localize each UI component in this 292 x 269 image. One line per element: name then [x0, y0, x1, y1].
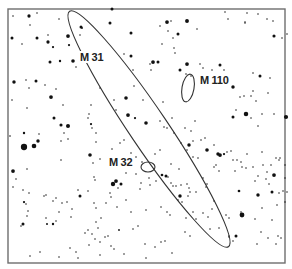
star: [246, 153, 248, 155]
star: [55, 220, 57, 222]
star: [36, 139, 39, 142]
star: [185, 19, 189, 23]
chart-frame: [8, 9, 285, 263]
star: [62, 104, 64, 106]
star: [173, 47, 175, 49]
star: [117, 187, 119, 189]
star: [53, 117, 56, 120]
star: [196, 28, 198, 30]
star: [79, 34, 81, 36]
star: [159, 149, 161, 151]
star: [126, 113, 130, 117]
star: [286, 191, 288, 193]
star: [49, 95, 53, 99]
star: [99, 254, 101, 256]
star: [29, 255, 31, 257]
star: [272, 173, 276, 177]
star: [88, 113, 90, 115]
star: [70, 216, 72, 218]
star: [211, 69, 213, 71]
star: [52, 223, 54, 225]
star: [252, 166, 254, 168]
star: [58, 18, 60, 20]
star: [284, 164, 286, 166]
star: [260, 231, 262, 233]
star: [159, 25, 161, 27]
star: [170, 182, 172, 184]
star: [123, 139, 125, 141]
star: [262, 164, 264, 166]
star: [161, 43, 163, 45]
star: [202, 212, 204, 214]
star: [110, 245, 112, 247]
star: [75, 251, 77, 253]
star: [133, 85, 135, 87]
star: [88, 244, 90, 246]
star: [230, 150, 232, 152]
star: [178, 168, 180, 170]
star: [20, 225, 22, 227]
star: [119, 142, 121, 144]
star: [111, 8, 114, 11]
star: [162, 101, 164, 103]
star: [219, 64, 222, 67]
star: [278, 159, 280, 161]
star: [213, 144, 215, 146]
star: [250, 95, 252, 97]
star: [91, 127, 93, 129]
star: [9, 135, 11, 137]
star: [186, 183, 188, 185]
star: [154, 153, 156, 155]
star: [240, 213, 245, 218]
star: [26, 168, 28, 170]
star: [189, 235, 191, 237]
star: [149, 63, 151, 65]
star: [69, 247, 71, 249]
star: [113, 248, 115, 250]
star: [240, 161, 242, 163]
star: [22, 189, 24, 191]
star: [12, 15, 14, 17]
star: [186, 149, 188, 151]
star: [166, 127, 168, 129]
star: [123, 253, 125, 255]
star: [104, 236, 106, 238]
star: [68, 44, 70, 46]
star: [120, 183, 123, 186]
star: [174, 52, 176, 54]
star: [163, 126, 165, 128]
star: [194, 120, 196, 122]
star: [36, 12, 38, 14]
star: [246, 12, 248, 14]
star: [175, 185, 177, 187]
star: [11, 99, 13, 101]
star: [142, 99, 144, 101]
star: [271, 219, 273, 221]
star: [95, 221, 97, 223]
star: [226, 151, 228, 153]
star: [28, 192, 30, 194]
star: [61, 202, 63, 204]
star: [52, 200, 54, 202]
star: [52, 46, 54, 48]
star: [160, 206, 162, 208]
star: [192, 211, 194, 213]
star: [218, 153, 222, 157]
star: [43, 195, 45, 197]
star: [278, 192, 280, 194]
star: [187, 195, 189, 197]
star: [135, 156, 137, 158]
star: [273, 113, 275, 115]
star: [192, 156, 194, 158]
star: [145, 209, 147, 211]
star: [167, 30, 169, 32]
star: [218, 170, 220, 172]
star: [87, 117, 89, 119]
star: [286, 33, 288, 35]
star: [149, 184, 151, 186]
star: [94, 179, 96, 181]
star: [231, 85, 234, 88]
star-chart: [0, 0, 292, 269]
star: [241, 166, 243, 168]
star: [257, 175, 259, 177]
